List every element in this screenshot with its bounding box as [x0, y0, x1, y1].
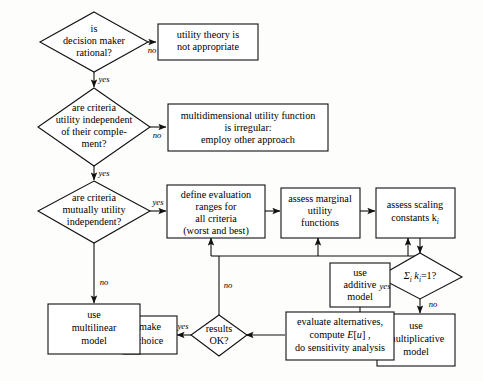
- d2-line-2: utility independent: [56, 114, 133, 125]
- node-box-assess-marginal-utility[interactable]: assess marginal utility functions: [281, 188, 360, 238]
- label-d2-no: no: [153, 130, 162, 140]
- b8-line-2: compute E[u] ,: [310, 329, 371, 340]
- b7-line-2: multiplicative: [388, 333, 445, 344]
- b4-line-2: utility: [308, 205, 333, 216]
- node-box-utility-not-appropriate[interactable]: utility theory is not appropriate: [158, 24, 258, 60]
- d3-line-2: mutually utility: [62, 204, 126, 215]
- label-d1-no: no: [148, 45, 157, 55]
- node-decision-results-ok[interactable]: results OK?: [191, 315, 247, 356]
- b1-line-2: not appropriate: [177, 41, 239, 52]
- d3-line-1: are criteria: [72, 192, 116, 203]
- label-d4-yes: yes: [379, 281, 392, 291]
- b9-line-2: choice: [137, 335, 164, 346]
- b8-line-3: do sensitivity analysis: [295, 342, 385, 353]
- label-d3-no: no: [100, 277, 109, 287]
- b3-line-2: ranges for: [195, 201, 237, 212]
- d4-tail: =1?: [421, 270, 437, 281]
- b7-line-3: model: [403, 346, 429, 357]
- d2-line-1: are criteria: [72, 102, 116, 113]
- b5-line-2-text: constants k: [391, 212, 437, 223]
- node-box-define-evaluation-ranges[interactable]: define evaluation ranges for all criteri…: [167, 185, 265, 238]
- node-box-evaluate-alternatives[interactable]: evaluate alternatives, compute E[u] , do…: [286, 312, 394, 360]
- b4-line-1: assess marginal: [288, 193, 352, 204]
- b5-line-1: assess scaling: [387, 199, 443, 210]
- b2-line-1: multidimensional utility function: [181, 110, 316, 121]
- d4-sigma: Σ: [403, 270, 410, 281]
- b6-line-1: use: [353, 267, 367, 278]
- d5-line-2: OK?: [209, 335, 229, 346]
- node-box-multidimensional-irregular[interactable]: multidimensional utility function is irr…: [168, 104, 328, 151]
- b9-line-1: make: [139, 321, 162, 332]
- b3-line-1: define evaluation: [181, 189, 251, 200]
- node-box-assess-scaling-constants[interactable]: assess scaling constants ki: [376, 188, 455, 238]
- b3-line-4: (worst and best): [183, 225, 249, 237]
- b6-line-3: model: [347, 291, 373, 302]
- flowchart-svg: is decision maker rational? utility theo…: [0, 0, 483, 381]
- d1-line-2: decision maker: [63, 35, 126, 46]
- b5-subscript: i: [437, 217, 439, 225]
- b7-line-1: use: [409, 320, 423, 331]
- d5-line-1: results: [206, 323, 233, 334]
- b2-line-3: employ other approach: [201, 134, 295, 145]
- d2-line-3: of their comple-: [61, 126, 127, 137]
- node-decision-mutually-utility-independent[interactable]: are criteria mutually utility independen…: [38, 181, 150, 243]
- b6-line-2: additive: [344, 279, 377, 290]
- b2-line-2: is irregular:: [224, 122, 271, 133]
- b8-line-2-pre: compute: [310, 329, 348, 340]
- label-d2-yes: yes: [98, 168, 111, 178]
- d1-line-1: is: [91, 23, 98, 34]
- b1-line-1: utility theory is: [177, 29, 239, 40]
- d3-line-3: independent?: [67, 216, 122, 227]
- d2-line-4: ment?: [82, 138, 107, 149]
- b10-line-1: use: [87, 309, 101, 320]
- b8-line-2-close: ] ,: [362, 329, 371, 340]
- b8-line-1: evaluate alternatives,: [297, 316, 383, 327]
- b10-line-2: multilinear: [72, 322, 117, 333]
- b3-line-3: all criteria: [195, 213, 237, 224]
- node-decision-utility-independent[interactable]: are criteria utility independent of thei…: [38, 88, 150, 166]
- b10-line-3: model: [81, 335, 107, 346]
- label-d5-no: no: [224, 280, 233, 290]
- label-d4-no: no: [429, 299, 438, 309]
- d1-line-3: rational?: [76, 47, 112, 58]
- b4-line-3: functions: [301, 217, 339, 228]
- node-decision-rational[interactable]: is decision maker rational?: [40, 12, 148, 72]
- b5-line-2: constants ki: [391, 212, 439, 225]
- label-d1-yes: yes: [98, 74, 111, 84]
- label-d3-yes: yes: [152, 197, 165, 207]
- flowchart-canvas: is decision maker rational? utility theo…: [0, 0, 483, 381]
- label-d5-yes: yes: [177, 321, 190, 331]
- node-decision-sum-ki-equals-one[interactable]: Σi ki=1?: [378, 253, 462, 299]
- node-box-use-multilinear-model[interactable]: use multilinear model: [48, 304, 140, 354]
